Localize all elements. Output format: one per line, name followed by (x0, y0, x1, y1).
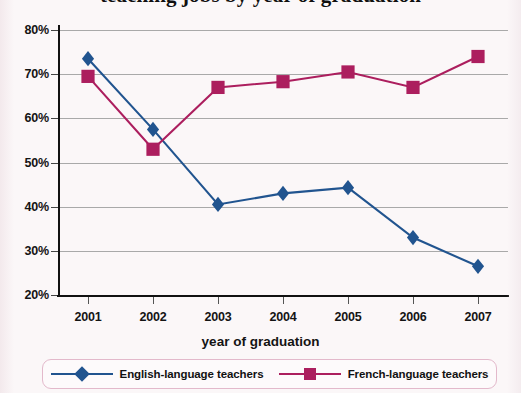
data-point-marker (211, 81, 224, 94)
chart-screenshot: teaching jobs by year of graduation 20%3… (0, 0, 521, 393)
legend-item-french[interactable]: French-language teachers (279, 366, 489, 382)
x-tick-label: 2005 (334, 310, 361, 324)
data-point-marker (407, 230, 419, 245)
y-tick-label: 40% (25, 200, 49, 214)
data-point-marker (277, 186, 289, 201)
x-tick-label: 2007 (464, 310, 491, 324)
x-tick-label: 2004 (269, 310, 296, 324)
data-point-marker (471, 50, 484, 63)
data-point-marker (81, 70, 94, 83)
y-tick-mark (51, 74, 58, 75)
x-tick-label: 2001 (74, 310, 101, 324)
y-tick-mark (51, 163, 58, 164)
y-tick-mark (51, 118, 58, 119)
diamond-icon (74, 366, 90, 382)
x-tick-label: 2003 (204, 310, 231, 324)
y-tick-label: 30% (25, 244, 49, 258)
series-plot (58, 30, 508, 295)
y-tick-mark (51, 207, 58, 208)
data-point-marker (342, 180, 354, 195)
legend-label: French-language teachers (348, 368, 489, 380)
y-tick-label: 20% (25, 288, 49, 302)
data-point-marker (276, 75, 289, 88)
y-tick-label: 70% (25, 67, 49, 81)
x-axis-line (57, 295, 509, 297)
data-point-marker (341, 65, 354, 78)
y-tick-label: 60% (25, 111, 49, 125)
x-axis-title: year of graduation (0, 334, 521, 349)
data-point-marker (472, 259, 484, 274)
chart-title: teaching jobs by year of graduation (0, 0, 521, 8)
y-tick-label: 80% (25, 23, 49, 37)
legend-marker (51, 366, 113, 382)
x-tick-label: 2006 (399, 310, 426, 324)
legend-label: English-language teachers (120, 368, 264, 380)
y-tick-mark (51, 251, 58, 252)
y-tick-mark (51, 30, 58, 31)
data-point-marker (406, 81, 419, 94)
series-line (88, 57, 478, 150)
y-tick-label: 50% (25, 156, 49, 170)
chart-legend: English-language teachersFrench-language… (42, 359, 497, 389)
square-icon (304, 368, 316, 380)
legend-item-english[interactable]: English-language teachers (51, 366, 264, 382)
x-tick-label: 2002 (139, 310, 166, 324)
plot-area: 20%30%40%50%60%70%80% 200120022003200420… (58, 30, 508, 295)
legend-marker (279, 366, 341, 382)
data-point-marker (146, 143, 159, 156)
